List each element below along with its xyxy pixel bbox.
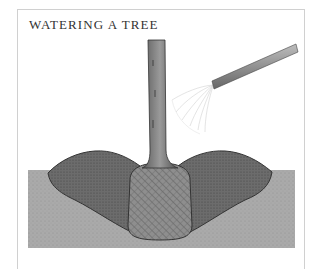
root-ball [128, 163, 192, 240]
tree-trunk [142, 40, 178, 168]
garden-hose [212, 44, 298, 89]
water-spray [172, 85, 213, 134]
